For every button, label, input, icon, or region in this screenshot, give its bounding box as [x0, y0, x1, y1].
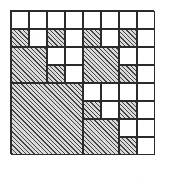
empty-tile — [137, 83, 155, 101]
empty-tile — [47, 47, 65, 65]
grid-plate — [10, 10, 154, 154]
shaded-tile — [83, 101, 101, 119]
shaded-tile — [11, 83, 83, 155]
shaded-tile — [83, 47, 119, 83]
empty-tile — [137, 47, 155, 65]
shaded-tile — [11, 47, 47, 83]
empty-tile — [83, 11, 101, 29]
shaded-tile — [119, 65, 137, 83]
empty-tile — [101, 29, 119, 47]
empty-tile — [137, 11, 155, 29]
shaded-tile — [83, 29, 101, 47]
empty-tile — [65, 11, 83, 29]
empty-tile — [137, 101, 155, 119]
shaded-tile — [11, 29, 29, 47]
empty-tile — [119, 11, 137, 29]
empty-tile — [101, 11, 119, 29]
shaded-tile — [47, 65, 65, 83]
shaded-tile — [119, 29, 137, 47]
empty-tile — [29, 29, 47, 47]
empty-tile — [137, 137, 155, 155]
shaded-tile — [47, 29, 65, 47]
empty-tile — [101, 83, 119, 101]
empty-tile — [137, 65, 155, 83]
grid-tiling-figure — [0, 0, 182, 187]
empty-tile — [65, 65, 83, 83]
empty-tile — [47, 11, 65, 29]
shaded-tile — [119, 137, 137, 155]
empty-tile — [119, 83, 137, 101]
empty-tile — [65, 47, 83, 65]
empty-tile — [83, 83, 101, 101]
empty-tile — [11, 11, 29, 29]
empty-tile — [119, 47, 137, 65]
empty-tile — [65, 29, 83, 47]
empty-tile — [137, 29, 155, 47]
empty-tile — [137, 119, 155, 137]
shaded-tile — [119, 101, 137, 119]
empty-tile — [101, 101, 119, 119]
shaded-tile — [83, 119, 119, 155]
empty-tile — [119, 119, 137, 137]
empty-tile — [29, 11, 47, 29]
